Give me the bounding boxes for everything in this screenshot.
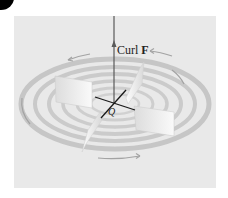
curl-f-label: Curl F <box>117 43 149 58</box>
point-q-label: Q <box>108 106 115 117</box>
curl-diagram <box>0 0 228 198</box>
